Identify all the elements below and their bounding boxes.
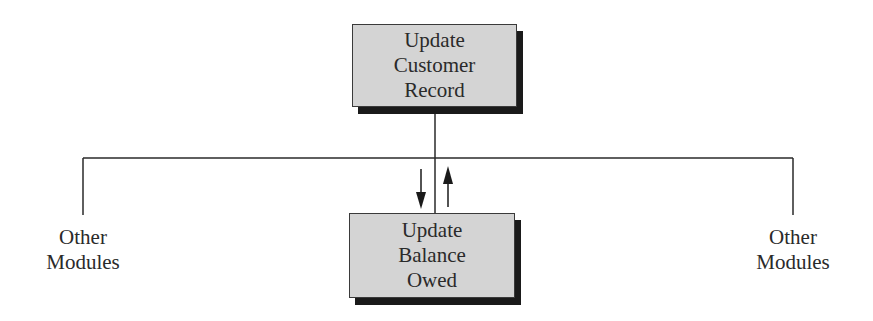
node-text-line: Customer — [394, 53, 476, 78]
node-text-line: Record — [404, 78, 465, 103]
node-text-line: Update — [404, 28, 465, 53]
label-line: Modules — [723, 250, 863, 275]
label-line: Other — [13, 225, 153, 250]
label-line: Other — [723, 225, 863, 250]
update-customer-record-box: Update Customer Record — [352, 24, 517, 107]
right-other-modules-label: Other Modules — [723, 225, 863, 275]
left-other-modules-label: Other Modules — [13, 225, 153, 275]
structure-chart: Update Customer Record Update Balance Ow… — [0, 0, 873, 321]
down-arrow-icon — [416, 169, 426, 209]
up-arrow-icon — [443, 166, 453, 207]
node-text-line: Owed — [407, 268, 457, 293]
label-line: Modules — [13, 250, 153, 275]
update-balance-owed-box: Update Balance Owed — [349, 213, 515, 298]
node-text-line: Balance — [398, 243, 466, 268]
node-text-line: Update — [402, 218, 463, 243]
